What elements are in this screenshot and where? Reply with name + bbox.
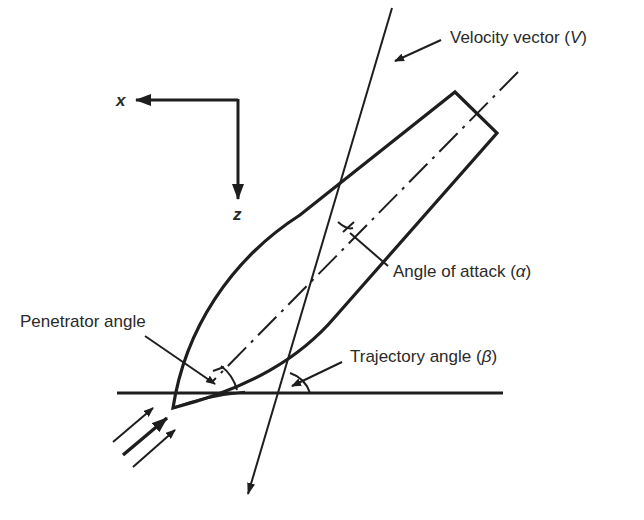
penetrator-centerline bbox=[212, 72, 518, 382]
penetrator-angle-label: Penetrator angle bbox=[20, 312, 146, 331]
angle-of-attack-leader bbox=[350, 233, 388, 266]
trajectory-angle-leader bbox=[292, 362, 342, 386]
z-axis-label: z bbox=[232, 205, 242, 224]
velocity-vector-label: Velocity vector (V) bbox=[450, 28, 587, 47]
trajectory-angle-label: Trajectory angle (β) bbox=[350, 347, 497, 366]
velocity-leader-arrow bbox=[395, 40, 441, 61]
x-axis-label: x bbox=[115, 91, 127, 110]
coordinate-axes: x z bbox=[115, 91, 242, 224]
incoming-flow-arrows bbox=[113, 408, 175, 467]
penetrator-diagram: x z Velocity vector (V) Angle of attack … bbox=[0, 0, 644, 520]
angle-of-attack-label: Angle of attack (α) bbox=[393, 262, 531, 281]
